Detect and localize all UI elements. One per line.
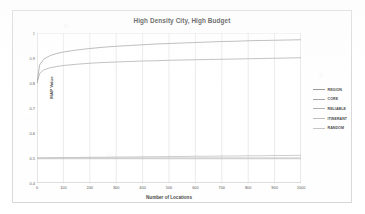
chart-title: High Density City, High Budget bbox=[13, 17, 351, 24]
y-tick-label: 0.6 bbox=[30, 131, 35, 136]
legend-item-itinerant[interactable]: ITINERANT bbox=[313, 114, 365, 124]
legend-swatch-icon bbox=[313, 118, 325, 119]
chart-legend: REGIONCORERELIABLEITINERANTRANDOM bbox=[313, 85, 365, 133]
x-tick-label: 1000 bbox=[297, 185, 306, 190]
y-tick-label: 0.7 bbox=[30, 106, 35, 111]
legend-item-reliable[interactable]: RELIABLE bbox=[313, 104, 365, 114]
y-tick-label: 0.8 bbox=[30, 81, 35, 86]
x-axis-title: Number of Locations bbox=[37, 195, 301, 200]
legend-label: RELIABLE bbox=[328, 107, 346, 111]
plot-svg bbox=[37, 33, 301, 183]
x-tick-label: 800 bbox=[245, 185, 252, 190]
legend-swatch-icon bbox=[313, 108, 325, 109]
y-tick-label: 0.9 bbox=[30, 56, 35, 61]
legend-label: ITINERANT bbox=[328, 117, 348, 121]
y-axis-title: MAP Value bbox=[49, 58, 54, 118]
x-tick-label: 200 bbox=[87, 185, 94, 190]
y-tick-label: 0.4 bbox=[30, 181, 35, 186]
y-tick-label: 0.5 bbox=[30, 156, 35, 161]
legend-swatch-icon bbox=[313, 89, 325, 90]
plot-area: MAP Value Number of Locations 0.40.50.60… bbox=[37, 33, 301, 183]
legend-label: REGION bbox=[328, 88, 342, 92]
x-tick-label: 500 bbox=[166, 185, 173, 190]
legend-item-random[interactable]: RANDOM bbox=[313, 123, 365, 133]
legend-swatch-icon bbox=[313, 99, 325, 100]
x-tick-label: 400 bbox=[139, 185, 146, 190]
x-tick-label: 700 bbox=[219, 185, 226, 190]
x-tick-label: 0 bbox=[36, 185, 38, 190]
legend-item-core[interactable]: CORE bbox=[313, 95, 365, 105]
legend-swatch-icon bbox=[313, 128, 325, 129]
legend-item-region[interactable]: REGION bbox=[313, 85, 365, 95]
legend-label: RANDOM bbox=[328, 126, 344, 130]
x-tick-label: 600 bbox=[192, 185, 199, 190]
y-tick-label: 1 bbox=[33, 31, 35, 36]
x-tick-label: 900 bbox=[271, 185, 278, 190]
legend-label: CORE bbox=[328, 97, 339, 101]
x-tick-label: 100 bbox=[60, 185, 67, 190]
x-tick-label: 300 bbox=[113, 185, 120, 190]
chart-container: High Density City, High Budget MAP Value… bbox=[12, 10, 352, 203]
